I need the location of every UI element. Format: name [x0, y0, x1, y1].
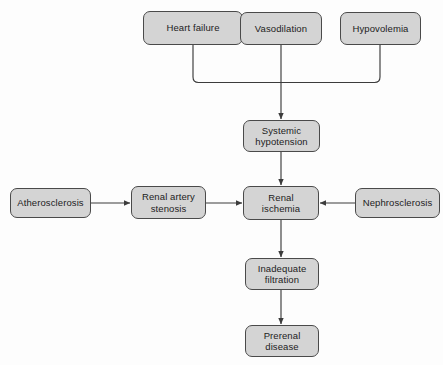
node-hypovolemia-label: Hypovolemia	[348, 23, 412, 35]
node-prerenal-disease-label: Prerenal disease	[260, 330, 305, 353]
node-inadequate-filtration: Inadequate filtration	[245, 258, 319, 290]
node-inadequate-filtration-label: Inadequate filtration	[254, 263, 311, 286]
node-renal-ischemia-label: Renal ischemia	[258, 192, 304, 215]
node-hypovolemia: Hypovolemia	[340, 12, 421, 45]
node-heart-failure: Heart failure	[143, 11, 243, 45]
flowchart-diagram: Heart failure Vasodilation Hypovolemia S…	[0, 0, 443, 365]
node-systemic-hypotension-label: Systemic hypotension	[251, 125, 311, 148]
node-nephrosclerosis: Nephrosclerosis	[355, 188, 440, 218]
node-atherosclerosis-label: Atherosclerosis	[13, 197, 87, 209]
node-renal-ischemia: Renal ischemia	[243, 186, 319, 220]
edge-hypovolemia-to-junction	[281, 45, 380, 83]
node-vasodilation: Vasodilation	[240, 12, 322, 45]
node-nephrosclerosis-label: Nephrosclerosis	[359, 197, 437, 209]
edge-heart-failure-to-junction	[193, 45, 281, 83]
node-prerenal-disease: Prerenal disease	[245, 325, 319, 357]
node-heart-failure-label: Heart failure	[162, 22, 223, 34]
node-renal-artery-stenosis: Renal artery stenosis	[131, 186, 206, 219]
node-renal-artery-stenosis-label: Renal artery stenosis	[138, 191, 199, 214]
flowchart-edges	[0, 0, 443, 365]
node-systemic-hypotension: Systemic hypotension	[243, 120, 320, 152]
node-vasodilation-label: Vasodilation	[251, 23, 311, 35]
node-atherosclerosis: Atherosclerosis	[10, 188, 91, 218]
